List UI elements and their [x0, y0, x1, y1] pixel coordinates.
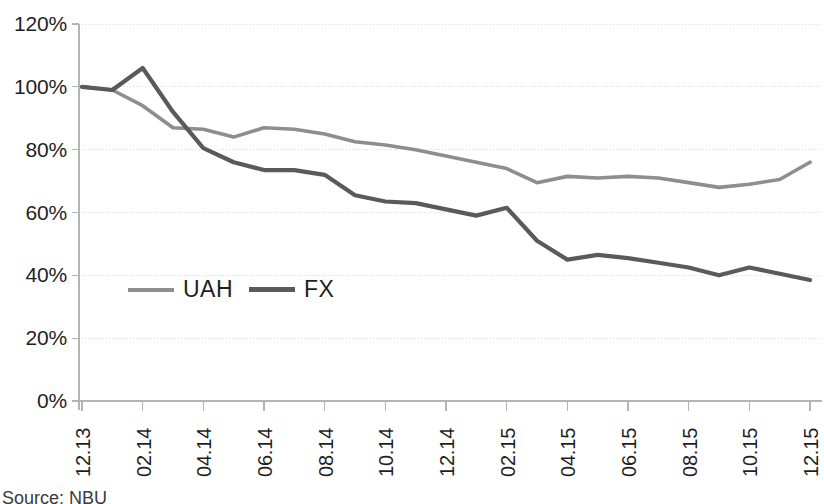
x-tick-label: 02.14 — [134, 428, 154, 477]
y-tick-label: 0% — [37, 390, 67, 411]
x-tick-label: 12.14 — [437, 428, 457, 477]
axis-lines — [79, 24, 822, 410]
line-chart: 120%100%80%60%40%20%0% 12.1302.1404.1406… — [0, 0, 824, 504]
x-tick-label: 08.14 — [316, 428, 336, 477]
series-line-uah — [82, 87, 810, 188]
x-tick-label: 06.15 — [619, 428, 639, 477]
series-line-fx — [82, 68, 810, 280]
legend-item-fx: FX — [233, 278, 334, 301]
x-tick-label: 12.15 — [801, 428, 821, 477]
x-tick-label: 02.15 — [498, 428, 518, 477]
y-tick-label: 80% — [26, 139, 67, 160]
data-series-group — [82, 68, 810, 280]
x-tick-label: 10.15 — [740, 428, 760, 477]
y-tick-label: 120% — [14, 13, 67, 34]
legend-swatch-fx-icon — [249, 287, 295, 292]
source-note: Source: NBU — [2, 488, 107, 504]
y-tick-label: 20% — [26, 327, 67, 348]
legend-swatch-uah-icon — [128, 288, 174, 292]
y-axis-ticks — [72, 24, 79, 401]
chart-legend: UAH FX — [128, 278, 334, 301]
x-tick-label: 12.13 — [73, 428, 93, 477]
legend-label-uah: UAH — [183, 278, 233, 301]
y-tick-label: 100% — [14, 76, 67, 97]
x-tick-label: 06.14 — [255, 428, 275, 477]
y-tick-label: 60% — [26, 202, 67, 223]
x-tick-label: 04.15 — [558, 428, 578, 477]
legend-item-uah: UAH — [128, 278, 233, 301]
x-tick-label: 08.15 — [680, 428, 700, 477]
y-tick-label: 40% — [26, 264, 67, 285]
x-tick-label: 04.14 — [194, 428, 214, 477]
legend-label-fx: FX — [304, 278, 334, 301]
x-axis-ticks — [82, 401, 810, 411]
x-tick-label: 10.14 — [376, 428, 396, 477]
